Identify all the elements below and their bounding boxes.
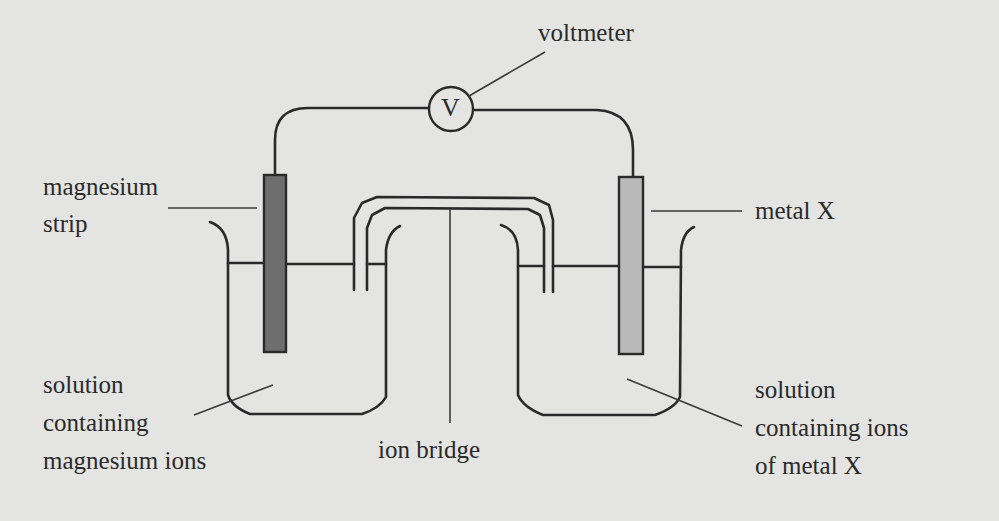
label-metal-x: metal X <box>755 196 835 225</box>
label-solution-left-line1: solution <box>43 370 206 399</box>
leader-voltmeter <box>469 52 545 96</box>
voltmeter-symbol: V <box>441 93 460 122</box>
label-ion-bridge: ion bridge <box>378 435 480 464</box>
ion-bridge-outer <box>354 197 553 292</box>
label-solution-left-line3: magnesium ions <box>43 446 206 475</box>
wire-right <box>473 110 633 177</box>
magnesium-strip <box>264 175 286 352</box>
beaker-right <box>501 225 694 415</box>
wire-left <box>275 108 429 175</box>
beaker-left <box>210 222 400 414</box>
label-magnesium-strip: magnesium strip <box>43 172 158 238</box>
label-solution-right: solution containing ions of metal X <box>755 375 908 480</box>
label-solution-right-line1: solution <box>755 375 908 404</box>
metal-x-strip <box>619 177 643 354</box>
leader-solution-right <box>627 379 742 426</box>
label-solution-right-line2: containing ions <box>755 413 908 442</box>
label-solution-right-line3: of metal X <box>755 451 908 480</box>
label-magnesium-strip-line1: magnesium <box>43 172 158 201</box>
label-solution-left-line2: containing <box>43 408 206 437</box>
label-voltmeter: voltmeter <box>538 18 634 47</box>
label-magnesium-strip-line2: strip <box>43 209 158 238</box>
label-solution-left: solution containing magnesium ions <box>43 370 206 475</box>
